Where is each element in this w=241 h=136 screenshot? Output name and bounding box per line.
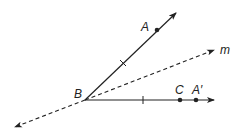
label-a: A (140, 20, 149, 34)
geometry-diagram: A B C A′ m (0, 0, 241, 136)
label-m: m (220, 43, 230, 57)
ray-ba (85, 13, 176, 100)
point-c (178, 98, 183, 103)
line-m-extension (15, 100, 85, 127)
point-a (155, 28, 160, 33)
label-c: C (175, 83, 184, 97)
label-b: B (74, 87, 82, 101)
label-a-prime: A′ (191, 83, 203, 97)
point-a-prime (194, 98, 199, 103)
